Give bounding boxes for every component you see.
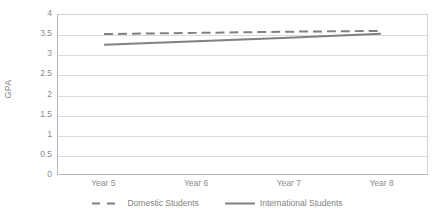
legend-item[interactable]: Domestic Students	[92, 198, 198, 208]
x-axis-tick-label: Year 7	[243, 178, 336, 189]
series-lines	[58, 15, 427, 174]
legend-label: International Students	[260, 198, 343, 208]
plot-area	[57, 14, 428, 175]
y-axis-tick-label: 3	[18, 49, 52, 58]
gpa-line-chart: GPA 43.532.521.510.50 Year 5Year 6Year 7…	[0, 0, 435, 217]
x-axis-tick-label: Year 8	[335, 178, 428, 189]
x-axis-tick-label: Year 5	[57, 178, 150, 189]
legend-line-swatch	[92, 199, 122, 208]
chart-legend: Domestic StudentsInternational Students	[0, 198, 435, 208]
x-axis-tick-label: Year 6	[150, 178, 243, 189]
y-axis-tick-label: 1	[18, 130, 52, 139]
y-axis-tick-label: 0	[18, 170, 52, 179]
y-axis-tick-labels: 43.532.521.510.50	[18, 0, 52, 217]
y-axis-tick-label: 3.5	[18, 29, 52, 38]
y-axis-title: GPA	[3, 67, 13, 111]
y-axis-tick-label: 2	[18, 90, 52, 99]
y-axis-tick-label: 2.5	[18, 69, 52, 78]
legend-label: Domestic Students	[127, 198, 198, 208]
series-line	[104, 34, 381, 45]
y-axis-tick-label: 4	[18, 9, 52, 18]
legend-item[interactable]: International Students	[225, 198, 343, 208]
y-axis-tick-label: 0.5	[18, 150, 52, 159]
y-axis-tick-label: 1.5	[18, 110, 52, 119]
x-axis-tick-labels: Year 5Year 6Year 7Year 8	[57, 178, 428, 194]
legend-line-swatch	[225, 199, 255, 208]
series-line	[104, 31, 381, 34]
